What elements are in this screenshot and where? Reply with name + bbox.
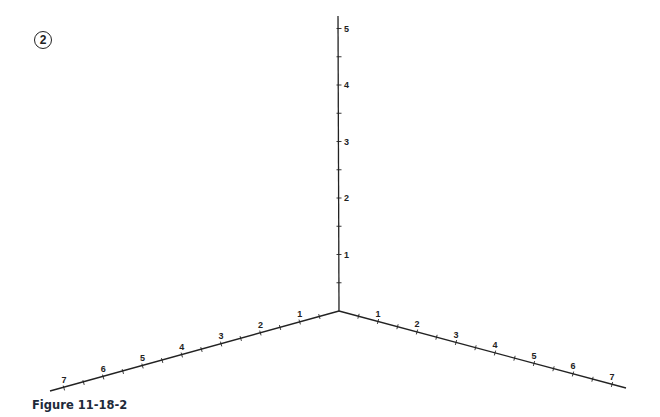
right-axis-tick: [358, 314, 359, 319]
left-axis-label: 6: [101, 364, 106, 374]
right-axis-tick: [416, 330, 417, 335]
isometric-axes-diagram: 1234512345671234567: [0, 0, 660, 417]
right-axis-label: 2: [414, 319, 419, 329]
right-axis-tick: [494, 351, 495, 356]
right-axis-label: 3: [453, 330, 458, 340]
right-axis-tick: [553, 366, 554, 371]
vertical-axis-label: 5: [344, 24, 349, 34]
right-axis-label: 5: [531, 351, 536, 361]
right-axis-tick: [436, 335, 437, 340]
vertical-axis-label: 4: [344, 80, 349, 90]
left-axis-label: 1: [297, 309, 302, 319]
right-axis-tick: [572, 372, 573, 377]
vertical-axis: [338, 16, 339, 311]
right-axis-label: 7: [609, 372, 614, 382]
left-axis: [50, 311, 339, 391]
right-axis-tick: [377, 319, 378, 324]
left-axis-label: 7: [61, 375, 66, 385]
right-axis-label: 4: [492, 340, 497, 350]
right-axis-label: 6: [570, 361, 575, 371]
right-axis-tick: [475, 345, 476, 350]
left-axis-label: 2: [258, 320, 263, 330]
figure-caption: Figure 11-18-2: [32, 398, 127, 412]
right-axis-tick: [397, 324, 398, 329]
right-axis-label: 1: [375, 309, 380, 319]
vertical-axis-label: 3: [344, 137, 349, 147]
right-axis-tick: [514, 356, 515, 361]
right-axis: [339, 311, 626, 388]
left-axis-label: 5: [140, 353, 145, 363]
right-axis-tick: [533, 361, 534, 366]
vertical-axis-label: 2: [344, 193, 349, 203]
left-axis-label: 4: [179, 342, 184, 352]
vertical-axis-label: 1: [344, 250, 349, 260]
right-axis-tick: [592, 377, 593, 382]
right-axis-tick: [455, 340, 456, 345]
right-axis-tick: [611, 382, 612, 387]
left-axis-label: 3: [219, 331, 224, 341]
left-axis-tick: [63, 386, 64, 391]
